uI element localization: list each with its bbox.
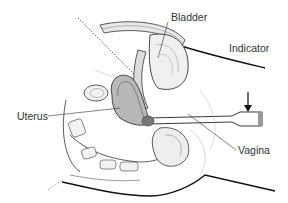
- label-vagina: Vagina: [238, 145, 270, 156]
- label-bladder: Bladder: [171, 12, 207, 23]
- uterus-leader: [48, 108, 120, 116]
- anatomical-diagram: Bladder Indicator Uterus Vagina: [0, 0, 288, 203]
- probe-shape: [148, 112, 262, 126]
- pelvis-illustration: [0, 0, 288, 203]
- ovary-shape: [84, 85, 108, 101]
- label-indicator: Indicator: [229, 43, 269, 54]
- skin-outline: [62, 175, 275, 196]
- label-uterus: Uterus: [17, 111, 48, 122]
- vaginal-canal-shape: [152, 128, 188, 167]
